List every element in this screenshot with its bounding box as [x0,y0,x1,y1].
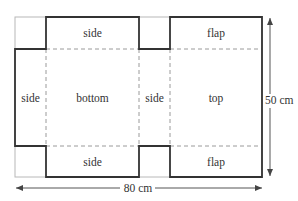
cut-outline [15,17,262,177]
box-net-diagram: side flap side bottom side top side flap… [0,0,298,201]
label-bottom-side: side [83,156,102,168]
width-dimension-label: 80 cm [124,182,152,194]
label-bottom: bottom [76,92,109,104]
label-top-side: side [83,27,102,39]
height-dimension-label: 50 cm [265,94,293,106]
label-top-flap: flap [207,27,225,40]
label-left-side: side [21,92,40,104]
label-bottom-flap: flap [207,156,225,169]
label-top: top [209,92,224,105]
label-middle-side: side [145,92,164,104]
